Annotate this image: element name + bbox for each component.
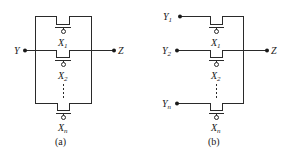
output-label-z: Z (118, 45, 124, 56)
gate-bubble-icon (215, 30, 219, 34)
label-x2-b: X2 (210, 70, 221, 83)
label-xn-b: Xn (210, 122, 221, 135)
diagram-a: Y Z X1 X2 Xn (a) (14, 17, 124, 149)
diagram-b-branch-1 (180, 17, 244, 25)
diagram-b-branch-n (177, 104, 244, 111)
input-label-y1: Y1 (163, 11, 172, 24)
label-xn-a: Xn (57, 122, 68, 135)
diagram-b: Y1 Y2 Yn Z X1 X2 Xn (b) (162, 11, 277, 148)
gate-bubble-icon (62, 30, 66, 34)
transistor-xn-b (209, 114, 224, 120)
output-label-z: Z (271, 45, 277, 56)
diagram-b-branch-2 (177, 51, 267, 58)
terminal-dot-icon (178, 15, 182, 19)
terminal-dot-icon (175, 49, 179, 53)
label-x2-a: X2 (57, 70, 68, 83)
terminal-dot-icon (23, 49, 27, 53)
terminal-dot-icon (265, 49, 269, 53)
input-label-yn: Yn (162, 98, 172, 111)
transistor-x1-b (209, 28, 224, 34)
transistor-x1-a (55, 28, 71, 34)
transistor-xn-a (56, 114, 71, 120)
caption-a: (a) (55, 136, 66, 148)
diagram-a-middle-wire (25, 51, 114, 58)
gate-bubble-icon (215, 63, 219, 67)
gate-bubble-icon (215, 116, 219, 120)
transistor-x2-a (55, 61, 71, 67)
gate-bubble-icon (62, 63, 66, 67)
input-label-y: Y (14, 45, 21, 56)
gate-bubble-icon (62, 116, 66, 120)
transistor-x2-b (209, 61, 224, 67)
input-label-y2: Y2 (162, 45, 172, 58)
terminal-dot-icon (175, 102, 179, 106)
caption-b: (b) (208, 136, 220, 148)
label-x1-b: X1 (210, 37, 221, 50)
terminal-dot-icon (112, 49, 116, 53)
label-x1-a: X1 (57, 37, 68, 50)
transistor-network-diagrams: Y Z X1 X2 Xn (a) (0, 0, 289, 157)
